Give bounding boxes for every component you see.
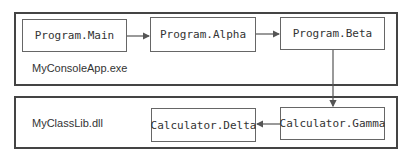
edges-layer [0,0,409,156]
